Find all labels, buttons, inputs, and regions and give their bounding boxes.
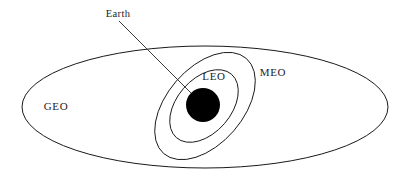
earth-body	[186, 88, 220, 122]
leo-label: LEO	[202, 70, 225, 82]
orbit-diagram-canvas: Earth LEO MEO GEO	[0, 0, 408, 182]
meo-label: MEO	[260, 66, 287, 78]
geo-label: GEO	[44, 100, 69, 112]
earth-label: Earth	[106, 8, 131, 19]
orbit-diagram: Earth LEO MEO GEO	[0, 0, 408, 182]
